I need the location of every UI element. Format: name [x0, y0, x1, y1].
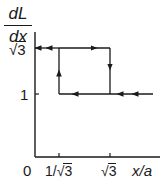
radicand: 3: [108, 163, 117, 178]
ytick-label-1: 1: [20, 87, 28, 102]
origin-label: 0: [23, 163, 31, 178]
prefix: 1/: [45, 163, 57, 179]
xtick-label-inv-sqrt3: 1/√3: [45, 163, 72, 178]
y-label-numerator: dL: [4, 4, 32, 26]
ytick-label-sqrt3: √3: [9, 41, 26, 57]
radicand: 3: [63, 163, 72, 178]
x-axis-label: x/a: [132, 163, 152, 178]
radicand: 3: [16, 41, 25, 57]
xtick-label-sqrt3: √3: [101, 163, 116, 178]
